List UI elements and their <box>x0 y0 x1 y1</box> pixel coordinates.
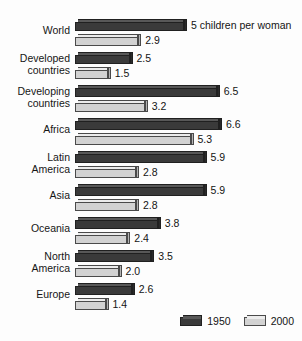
bar-value-label: 6.6 <box>226 118 241 131</box>
bar-end-cap <box>145 100 148 112</box>
legend-label: 2000 <box>271 315 294 327</box>
bar-shape <box>75 22 184 31</box>
bar-face <box>75 187 204 196</box>
bar-value-label: 1.4 <box>113 298 128 311</box>
bar-end-cap <box>130 52 133 64</box>
category-label-line: Latin <box>0 152 70 164</box>
bar-face <box>75 154 204 163</box>
bar-1950: 3.5 <box>75 250 302 263</box>
bar-value-label: 3.5 <box>158 250 173 263</box>
bar-shape <box>75 202 136 211</box>
chart-row: LatinAmerica5.92.8 <box>0 150 302 182</box>
category-label: Oceania <box>0 223 70 235</box>
bar-shape <box>75 268 119 277</box>
bar-2000: 3.2 <box>75 100 302 113</box>
bar-shape <box>75 253 151 262</box>
bar-top-bevel <box>78 184 204 187</box>
bar-face <box>75 121 219 130</box>
bar-end-cap <box>158 217 161 229</box>
bar-1950: 5 children per woman <box>75 19 302 32</box>
legend-swatch-dark-icon <box>180 317 202 326</box>
bar-1950: 2.6 <box>75 283 302 296</box>
bar-face <box>75 136 191 145</box>
chart-legend: 1950 2000 <box>0 315 294 327</box>
bar-value-label: 2.9 <box>145 34 160 47</box>
bar-end-cap <box>204 151 207 163</box>
category-label: LatinAmerica <box>0 152 70 175</box>
bar-end-cap <box>136 199 139 211</box>
bar-value-label: 3.8 <box>165 217 180 230</box>
bar-value-label: 5 children per woman <box>191 19 291 32</box>
bar-top-bevel <box>78 298 106 301</box>
bar-2000: 1.4 <box>75 298 302 311</box>
category-label-line: America <box>0 263 70 275</box>
row-bars: 3.52.0 <box>75 249 302 281</box>
bar-value-label: 3.2 <box>152 100 167 113</box>
bar-value-label: 2.5 <box>137 52 152 65</box>
bar-2000: 2.0 <box>75 265 302 278</box>
chart-row: Africa6.65.3 <box>0 117 302 149</box>
bar-face <box>75 220 158 229</box>
category-label-line: Africa <box>0 124 70 136</box>
bar-2000: 2.9 <box>75 34 302 47</box>
category-label-line: Developing <box>0 86 70 98</box>
legend-item-2000: 2000 <box>244 315 294 327</box>
bar-shape <box>75 37 138 46</box>
category-label: Asia <box>0 190 70 202</box>
bar-end-cap <box>191 133 194 145</box>
bar-1950: 5.9 <box>75 184 302 197</box>
bar-value-label: 6.5 <box>224 85 239 98</box>
bar-face <box>75 88 217 97</box>
row-bars: 2.51.5 <box>75 51 302 83</box>
bar-shape <box>75 187 204 196</box>
bar-end-cap <box>219 118 222 130</box>
bar-end-cap <box>204 184 207 196</box>
category-label: Europe <box>0 289 70 301</box>
bar-end-cap <box>217 85 220 97</box>
bar-top-bevel <box>78 67 108 70</box>
category-label-line: countries <box>0 65 70 77</box>
bar-value-label: 2.0 <box>126 265 141 278</box>
bar-face <box>75 235 127 244</box>
category-label: NorthAmerica <box>0 251 70 274</box>
category-label: World <box>0 25 70 37</box>
bar-shape <box>75 136 191 145</box>
bar-2000: 1.5 <box>75 67 302 80</box>
bar-1950: 6.6 <box>75 118 302 131</box>
bar-shape <box>75 220 158 229</box>
category-label-line: World <box>0 25 70 37</box>
bar-shape <box>75 301 106 310</box>
bar-chart: World5 children per woman2.9Developedcou… <box>0 0 302 341</box>
bar-end-cap <box>136 166 139 178</box>
bar-1950: 3.8 <box>75 217 302 230</box>
category-label: Developedcountries <box>0 53 70 76</box>
bar-value-label: 2.4 <box>134 232 149 245</box>
category-label: Developingcountries <box>0 86 70 109</box>
bar-2000: 5.3 <box>75 133 302 146</box>
bar-top-bevel <box>78 166 136 169</box>
bar-face <box>75 22 184 31</box>
bar-value-label: 2.8 <box>143 199 158 212</box>
bar-shape <box>75 235 127 244</box>
legend-item-1950: 1950 <box>180 315 230 327</box>
bar-face <box>75 55 130 64</box>
bar-end-cap <box>106 298 109 310</box>
bar-top-bevel <box>78 250 151 253</box>
bar-top-bevel <box>78 100 145 103</box>
bar-face <box>75 103 145 112</box>
bar-end-cap <box>132 283 135 295</box>
bar-shape <box>75 154 204 163</box>
bar-top-bevel <box>78 19 184 22</box>
bar-end-cap <box>138 34 141 46</box>
bar-value-label: 5.3 <box>198 133 213 146</box>
bar-face <box>75 70 108 79</box>
chart-plot-area: World5 children per woman2.9Developedcou… <box>0 18 302 315</box>
row-bars: 6.53.2 <box>75 84 302 116</box>
row-bars: 2.61.4 <box>75 282 302 314</box>
chart-row: Asia5.92.8 <box>0 183 302 215</box>
bar-top-bevel <box>78 34 138 37</box>
category-label-line: Europe <box>0 289 70 301</box>
row-bars: 6.65.3 <box>75 117 302 149</box>
bar-top-bevel <box>78 232 127 235</box>
chart-row: Europe2.61.4 <box>0 282 302 314</box>
